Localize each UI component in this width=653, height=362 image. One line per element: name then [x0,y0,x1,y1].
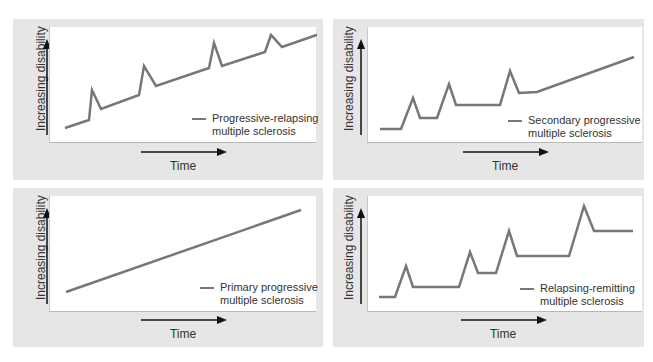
x-axis-label: Time [475,159,535,173]
x-axis-arrow-icon [463,147,549,157]
legend-swatch [200,287,214,289]
y-axis-arrow-icon [356,208,366,304]
x-axis-arrow-icon [141,147,227,157]
panel-primary-progressive: Increasing disability Primary progressiv… [13,188,323,347]
y-axis-arrow-icon [356,39,366,135]
plot-area: Secondary progressivemultiple sclerosis [367,27,642,143]
panel-progressive-relapsing: Increasing disability Progressive-relaps… [13,19,323,180]
x-axis-label: Time [153,327,213,341]
plot-area: Primary progressivemultiple sclerosis [49,196,316,312]
x-axis-label: Time [473,327,533,341]
legend-swatch [520,288,534,290]
plot-area: Relapsing-remittingmultiple sclerosis [367,196,642,312]
legend-swatch [508,120,522,122]
y-axis-label: Increasing disability [342,195,356,300]
legend-swatch [192,118,206,120]
panel-relapsing-remitting: Increasing disability Relapsing-remittin… [333,188,644,347]
x-axis-arrow-icon [461,315,547,325]
y-axis-label: Increasing disability [342,26,356,131]
panel-secondary-progressive: Increasing disability Secondary progress… [333,19,644,180]
x-axis-label: Time [153,159,213,173]
x-axis-arrow-icon [141,315,227,325]
plot-area: Progressive-relapsingmultiple sclerosis [49,27,316,143]
